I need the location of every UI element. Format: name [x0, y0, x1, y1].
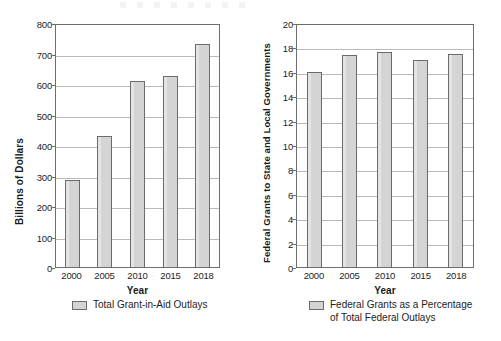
left-y-tick-mark [51, 268, 55, 269]
right-legend-label-line2: of Total Federal Outlays [330, 312, 472, 325]
figure-page: Billions of Dollars 80070060050040030020… [0, 0, 501, 341]
right-legend-label-line1: Federal Grants as a Percentage [330, 299, 472, 310]
right-x-axis-title: Year [296, 285, 474, 296]
bar [97, 136, 112, 267]
left-y-tick: 400 [37, 141, 52, 152]
left-x-tick: 2018 [187, 270, 220, 281]
bar [195, 44, 210, 267]
bar [65, 180, 80, 267]
left-x-tick: 2005 [88, 270, 121, 281]
left-legend-label: Total Grant-in-Aid Outlays [93, 299, 208, 312]
right-x-tick: 2000 [297, 270, 331, 281]
right-y-tick-mark [292, 73, 296, 74]
right-x-tick: 2005 [332, 270, 366, 281]
bar [377, 52, 392, 267]
left-x-axis-title: Year [55, 285, 220, 296]
left-plot-frame [55, 24, 220, 268]
right-bar-group [297, 25, 473, 267]
bar [130, 81, 145, 267]
left-x-tick: 2015 [154, 270, 187, 281]
left-y-tick-mark [51, 24, 55, 25]
left-y-tick: 800 [37, 19, 52, 30]
right-legend-swatch [309, 301, 324, 310]
left-plot-area [55, 24, 220, 268]
right-x-tick-labels: 20002005201020152018 [296, 270, 474, 281]
right-y-tick-mark [292, 24, 296, 25]
right-x-tick: 2018 [439, 270, 473, 281]
bar [413, 60, 428, 267]
right-y-tick-labels: 20181614121086420 [271, 0, 293, 341]
right-y-tick-mark [292, 170, 296, 171]
left-y-tick-labels: 8007006005004003002001000 [26, 0, 52, 341]
left-y-tick-mark [51, 238, 55, 239]
left-y-tick-mark [51, 177, 55, 178]
left-legend-swatch [72, 301, 87, 310]
left-legend: Total Grant-in-Aid Outlays [72, 299, 208, 312]
bar [448, 54, 463, 268]
left-y-axis-title: Billions of Dollars [14, 138, 25, 225]
left-y-tick: 700 [37, 49, 52, 60]
right-y-tick-mark [292, 48, 296, 49]
right-y-tick-mark [292, 244, 296, 245]
bar [307, 72, 322, 267]
right-x-tick: 2010 [368, 270, 402, 281]
left-y-tick: 500 [37, 110, 52, 121]
left-y-tick-mark [51, 85, 55, 86]
left-y-tick: 600 [37, 80, 52, 91]
left-y-tick-mark [51, 116, 55, 117]
right-y-tick-mark [292, 146, 296, 147]
bar [163, 76, 178, 267]
right-legend: Federal Grants as a Percentage of Total … [309, 299, 472, 324]
left-bar-group [56, 25, 219, 267]
left-y-tick: 100 [37, 232, 52, 243]
right-plot-area [296, 24, 474, 268]
chart-total-grant-in-aid-outlays: Billions of Dollars 80070060050040030020… [0, 0, 250, 341]
left-x-tick: 2000 [55, 270, 88, 281]
left-y-tick: 200 [37, 202, 52, 213]
left-y-tick-mark [51, 146, 55, 147]
right-y-tick-mark [292, 122, 296, 123]
left-x-tick: 2010 [121, 270, 154, 281]
right-y-tick-mark [292, 268, 296, 269]
right-y-tick-mark [292, 97, 296, 98]
right-y-tick-mark [292, 195, 296, 196]
left-x-tick-labels: 20002005201020152018 [55, 270, 220, 281]
left-y-tick-mark [51, 207, 55, 208]
right-legend-label: Federal Grants as a Percentage of Total … [330, 299, 472, 324]
left-y-tick: 300 [37, 171, 52, 182]
right-y-tick-mark [292, 219, 296, 220]
bar [342, 55, 357, 267]
right-plot-frame [296, 24, 474, 268]
left-y-tick-mark [51, 55, 55, 56]
right-x-tick: 2015 [404, 270, 438, 281]
chart-federal-grants-percentage: Federal Grants to State and Local Govern… [249, 0, 501, 341]
